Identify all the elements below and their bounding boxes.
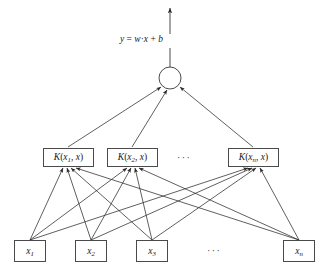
edges-kernel-to-sum <box>68 87 253 147</box>
formula-b: b <box>158 34 163 44</box>
input-node-2[interactable]: x2 <box>75 240 107 262</box>
formula-equals: = <box>127 34 132 44</box>
kernel-node-1-label: K(x1, x) <box>54 152 83 163</box>
input-node-n[interactable]: xn <box>283 240 315 262</box>
formula-plus: + <box>150 34 155 44</box>
edge-x1-k1 <box>30 168 63 240</box>
formula-x: x <box>144 34 148 44</box>
output-formula-label: y = w·x + b <box>120 34 163 44</box>
kernel-node-2-label: K(x2, x) <box>118 152 147 163</box>
kernel-layer-ellipsis: ··· <box>177 152 191 163</box>
edges-input-to-kernel <box>30 168 299 240</box>
edge-k1-sum <box>68 87 161 147</box>
edge-k2-sum <box>132 90 167 147</box>
input-node-3[interactable]: x3 <box>136 240 168 262</box>
edge-x1-kn <box>30 168 248 240</box>
edge-kn-sum <box>180 87 253 147</box>
kernel-node-2[interactable]: K(x2, x) <box>107 148 158 167</box>
edge-xn-k2 <box>139 168 299 240</box>
input-node-1-label: x1 <box>26 246 34 257</box>
input-node-2-label: x2 <box>87 246 95 257</box>
edge-x1-k2 <box>30 168 127 240</box>
kernel-network-diagram: y = w·x + b K(x1, x) K(x2, x) K(xn, x) ·… <box>0 0 322 272</box>
edge-x2-k2 <box>91 168 131 240</box>
input-node-n-label: xn <box>295 246 303 257</box>
kernel-node-n-label: K(xn, x) <box>239 152 268 163</box>
edge-x3-k2 <box>135 168 152 240</box>
input-node-3-label: x3 <box>148 246 156 257</box>
edge-x3-kn <box>152 168 256 240</box>
input-node-1[interactable]: x1 <box>14 240 46 262</box>
summation-node <box>159 67 181 89</box>
input-layer-ellipsis: ··· <box>207 245 221 256</box>
edge-x2-kn <box>91 168 252 240</box>
kernel-node-n[interactable]: K(xn, x) <box>228 148 279 167</box>
kernel-node-1[interactable]: K(x1, x) <box>43 148 94 167</box>
